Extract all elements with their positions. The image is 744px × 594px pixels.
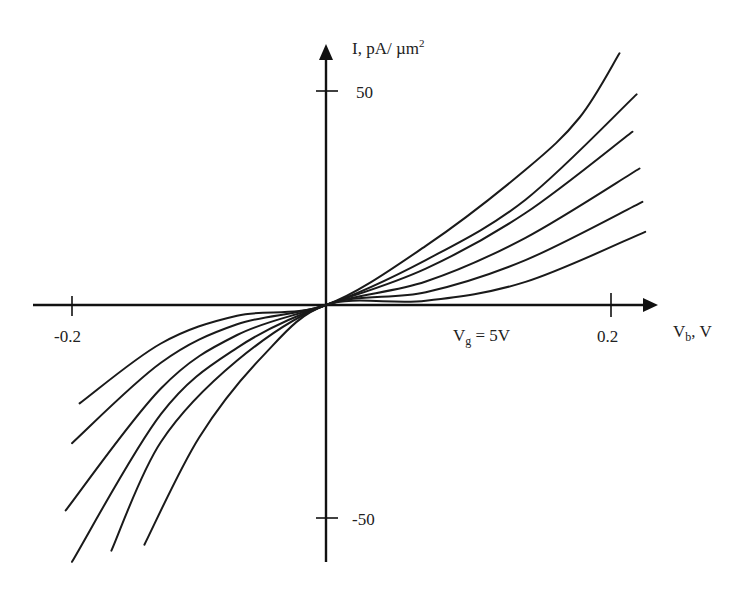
x-tick-label-neg: -0.2 (54, 328, 81, 345)
x-axis-arrow-icon (643, 298, 658, 312)
series-line-curve-3 (66, 132, 633, 511)
y-axis-title: I, pA/ µm2 (352, 38, 424, 57)
curves-group (66, 53, 646, 562)
y-axis-arrow-icon (319, 44, 333, 60)
y-axis-title-text: I, pA/ µm (352, 39, 419, 58)
y-axis-title-sup: 2 (419, 37, 425, 49)
series-line-curve-1 (80, 53, 620, 403)
x-axis-title-tail: , V (691, 322, 711, 341)
y-tick-label-pos: 50 (356, 84, 373, 101)
series-line-curve-5 (111, 202, 642, 551)
annotation-vg: Vg = 5V (453, 327, 510, 347)
x-axis-title-main: V (673, 322, 685, 341)
annotation-main: V (453, 326, 465, 345)
series-line-curve-6 (144, 232, 645, 545)
x-tick-label-pos: 0.2 (597, 328, 618, 345)
annotation-tail: = 5V (471, 326, 510, 345)
y-tick-label-neg: -50 (352, 511, 375, 528)
x-axis-title: Vb, V (673, 323, 712, 343)
